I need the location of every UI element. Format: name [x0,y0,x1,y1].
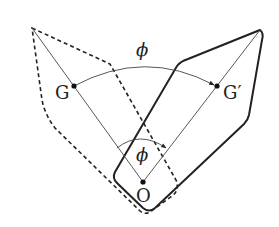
label-phi-center: ϕ [136,144,148,165]
point-O [140,179,145,184]
label-G-prime: G′ [223,82,241,103]
label-G: G [55,82,69,103]
label-phi-top: ϕ [136,39,148,60]
original-body-outline [32,28,177,213]
rotation-diagram: ϕ G G′ ϕ O [0,0,279,227]
label-O: O [136,185,151,206]
point-G-prime [214,83,219,88]
rotation-arc-G-to-G-prime [74,67,214,86]
line-O-to-original-apex [32,28,143,182]
point-G [71,83,76,88]
